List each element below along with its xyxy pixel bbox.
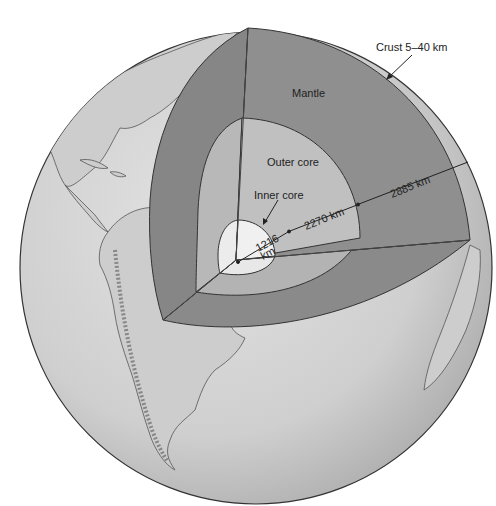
crust-label: Crust 5–40 km [376, 41, 448, 53]
inner-core-label: Inner core [254, 189, 304, 201]
earth-cutaway-diagram: Crust 5–40 km Mantle Outer core Inner co… [0, 0, 496, 506]
cutaway-back-face [236, 28, 470, 260]
outer-core-label: Outer core [267, 156, 319, 168]
mantle-label: Mantle [292, 87, 325, 99]
crust-leader [386, 55, 412, 80]
